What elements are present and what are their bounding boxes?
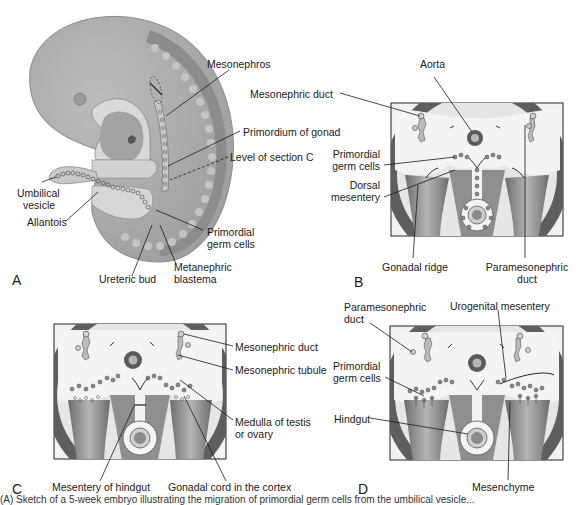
- label-primordial-germ-cells-a-line1: Primordial: [207, 226, 254, 238]
- section-d-illustration: [383, 303, 571, 491]
- label-medulla-line2: or ovary: [235, 428, 273, 440]
- label-level-of-section-c: Level of section C: [230, 151, 313, 163]
- label-aorta: Aorta: [420, 58, 445, 70]
- label-mesonephric-duct-b: Mesonephric duct: [250, 88, 333, 100]
- label-mesonephric-duct-c: Mesonephric duct: [235, 341, 318, 353]
- label-primordial-germ-cells-b-line1: Primordial: [330, 148, 380, 160]
- label-paramesonephric-duct-d-line1: Paramesonephric: [344, 301, 426, 313]
- label-dorsal-mesentery-line1: Dorsal: [330, 179, 380, 191]
- panel-letter-a: A: [12, 272, 21, 288]
- figure-caption: (A) Sketch of a 5-week embryo illustrati…: [0, 494, 576, 505]
- label-primordial-germ-cells-d-line1: Primordial: [333, 360, 380, 372]
- label-gonadal-ridge: Gonadal ridge: [382, 261, 448, 273]
- label-umbilical-vesicle-line1: Umbilical: [17, 187, 60, 199]
- section-b-illustration: [385, 83, 569, 267]
- label-primordial-germ-cells-d-line2: germ cells: [333, 372, 381, 384]
- label-gonadal-cord-in-cortex: Gonadal cord in the cortex: [168, 481, 291, 493]
- label-dorsal-mesentery-line2: mesentery: [330, 191, 380, 203]
- label-metanephric-blastema-line1: Metanephric: [174, 261, 232, 273]
- label-paramesonephric-duct-d-line2: duct: [344, 313, 364, 325]
- section-c-illustration: [45, 300, 235, 490]
- label-mesonephros: Mesonephros: [207, 58, 271, 70]
- label-hindgut: Hindgut: [334, 413, 370, 425]
- label-umbilical-vesicle-line2: vesicle: [23, 199, 55, 211]
- label-metanephric-blastema-line2: blastema: [174, 273, 217, 285]
- label-medulla-line1: Medulla of testis: [235, 416, 311, 428]
- label-mesonephric-tubule: Mesonephric tubule: [235, 364, 327, 376]
- label-primordium-of-gonad: Primordium of gonad: [243, 126, 340, 138]
- label-mesenchyme: Mesenchyme: [472, 481, 534, 493]
- label-mesentery-of-hindgut: Mesentery of hindgut: [52, 481, 150, 493]
- label-urogenital-mesentery: Urogenital mesentery: [450, 300, 550, 312]
- label-paramesonephric-duct-b-line2: duct: [482, 273, 572, 285]
- label-ureteric-bud: Ureteric bud: [99, 273, 156, 285]
- label-allantois: Allantois: [27, 216, 67, 228]
- optic-vesicle: [74, 93, 86, 105]
- label-primordial-germ-cells-a-line2: germ cells: [207, 238, 255, 250]
- label-primordial-germ-cells-b-line2: germ cells: [330, 160, 380, 172]
- label-paramesonephric-duct-b-line1: Paramesonephric: [482, 261, 572, 273]
- panel-letter-b: B: [354, 274, 363, 290]
